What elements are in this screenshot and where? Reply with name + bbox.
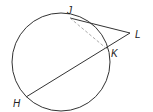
label-l: L: [135, 29, 141, 40]
label-j: J: [66, 5, 73, 16]
label-h: H: [13, 98, 21, 109]
secant-segment-lh: [26, 33, 130, 97]
label-k: K: [111, 48, 119, 59]
geometry-diagram: J L K H: [0, 0, 153, 112]
